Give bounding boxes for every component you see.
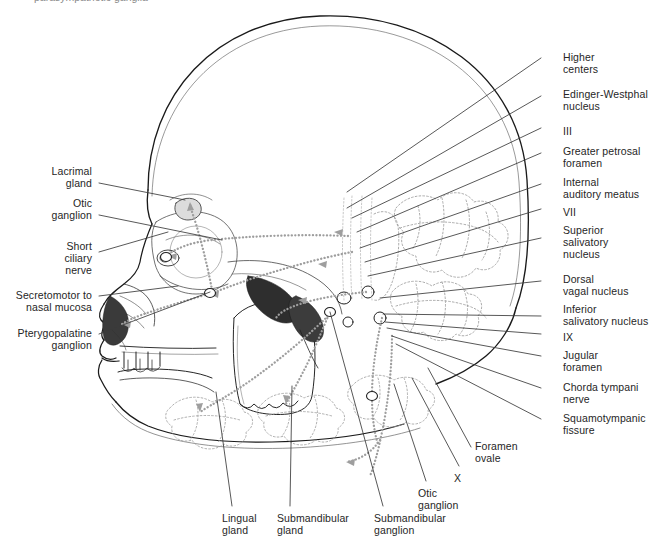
- nasal-cavity: [103, 284, 218, 354]
- leader-line-greater-petrosal-foramen: [357, 153, 541, 232]
- leader-line-iii: [352, 128, 541, 218]
- leader-line-otic-ganglion-bottom: [394, 384, 426, 481]
- zygomatic-temporal: [228, 261, 386, 368]
- leader-line-otic-ganglion-left: [99, 215, 222, 240]
- label-submandibular-ganglion: Submandibular ganglion: [374, 512, 446, 536]
- label-chorda-tympani-nerve: Chorda tympani nerve: [563, 381, 639, 405]
- leader-line-submandibular-ganglion: [330, 312, 383, 506]
- label-secretomotor-nasal-mucosa: Secretomotor to nasal mucosa: [16, 289, 92, 313]
- pterygopalatine-ganglion-node: [205, 289, 216, 298]
- label-edinger-westphal-nucleus: Edinger-Westphal nucleus: [563, 88, 648, 112]
- label-superior-salivatory-nucleus: Superior salivatory nucleus: [563, 224, 608, 261]
- skull-diagram-svg: [0, 0, 656, 545]
- label-short-ciliary-nerve: Short ciliary nerve: [64, 240, 92, 277]
- label-dorsal-vagal-nucleus: Dorsal vagal nucleus: [563, 273, 629, 297]
- label-x: X: [454, 472, 461, 484]
- label-greater-petrosal-foramen: Greater petrosal foramen: [563, 145, 640, 169]
- label-jugular-foramen: Jugular foramen: [563, 349, 602, 373]
- leader-line-superior-salivatory-nucleus: [368, 238, 541, 276]
- otic-ganglion-node: [367, 392, 378, 401]
- label-higher-centers: Higher centers: [563, 51, 598, 75]
- label-otic-ganglion-left: Otic ganglion: [51, 197, 92, 221]
- anatomical-figure: parasympathetic ganglia: [0, 0, 656, 545]
- label-squamotympanic-fissure: Squamotympanic fissure: [563, 412, 646, 436]
- cervical-column: [343, 196, 373, 300]
- label-foramen-ovale: Foramen ovale: [475, 440, 518, 464]
- leader-line-inferior-salivatory-nucleus: [383, 314, 541, 316]
- label-lingual-gland: Lingual gland: [222, 512, 257, 536]
- top-cutoff-text: parasympathetic ganglia: [34, 0, 148, 3]
- ciliary-ganglion-node: [161, 253, 172, 262]
- leader-line-squamotympanic-fissure: [396, 344, 541, 419]
- label-inferior-salivatory-nucleus: Inferior salivatory nucleus: [563, 303, 648, 327]
- label-submandibular-gland: Submandibular gland: [277, 512, 349, 536]
- label-iii: III: [563, 125, 572, 137]
- leader-line-higher-centers: [347, 58, 541, 192]
- label-otic-ganglion-bottom: Otic ganglion: [418, 487, 459, 511]
- nerve-pathways: [122, 202, 392, 476]
- leader-line-submandibular-gland: [290, 386, 292, 506]
- label-ix: IX: [563, 331, 573, 343]
- leader-line-secretomotor-nasal-mucosa: [99, 286, 178, 296]
- leader-line-short-ciliary-nerve: [99, 232, 168, 252]
- label-vii: VII: [563, 206, 576, 218]
- salivary-glands: [166, 375, 435, 449]
- label-lacrimal-gland: Lacrimal gland: [52, 165, 92, 189]
- leader-line-lacrimal-gland: [99, 183, 185, 200]
- label-pterygopalatine-ganglion: Pterygopalatine ganglion: [18, 327, 92, 351]
- leader-line-edinger-westphal-nucleus: [347, 96, 541, 208]
- leader-line-x: [412, 378, 459, 466]
- leader-line-lingual-gland: [216, 392, 232, 506]
- label-internal-auditory-meatus: Internal auditory meatus: [563, 176, 639, 200]
- brainstem-cerebellum: [374, 193, 508, 341]
